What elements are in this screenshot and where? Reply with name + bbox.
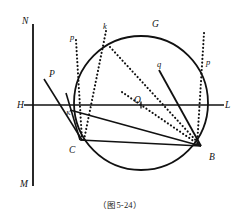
label-G: G [152,20,159,30]
geometry-canvas [0,0,240,221]
label-O: O [134,96,141,106]
label-K: K [66,110,71,117]
label-P: P [49,70,55,80]
label-q: q [157,60,161,69]
label-M: M [20,180,28,190]
label-N: N [22,17,28,27]
figure-caption: （图5-24） [0,198,240,210]
label-H: H [17,101,24,111]
label-p-left: p [70,33,74,42]
label-L: L [225,101,230,111]
dotted-T-to-B [110,47,201,146]
label-B: B [209,153,215,163]
label-p-right: p [206,58,210,67]
geometry-figure: NMHLOGBCKPppkq （图5-24） [0,0,240,221]
label-C: C [69,146,75,156]
solid-lines-layer [24,24,224,186]
label-k: k [103,22,107,31]
